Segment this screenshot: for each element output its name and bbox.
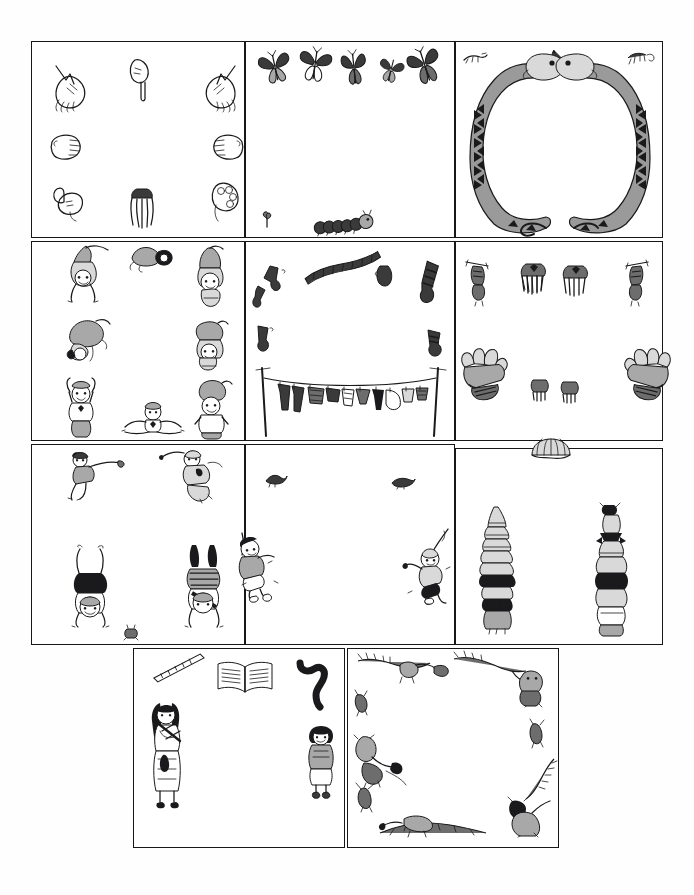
child-splits-icon [122,400,184,438]
open-hand-reaching-icon [50,60,94,112]
clothesline-icon [250,366,452,438]
monkey-on-branch-top-left-icon [356,651,452,685]
panel-hands[interactable] [31,41,245,238]
fist-right-icon [210,132,246,162]
panel-gloves[interactable] [455,241,663,441]
hat-stack-left-icon [476,505,520,635]
sock-pair-upper-left-icon [252,264,288,310]
thumbs-up-hand-icon [50,182,90,222]
child-handstand-left-icon [66,545,114,629]
bird-left-icon [264,471,288,487]
glove-on-stick-right-icon [622,258,652,308]
glove-on-stick-left-icon [462,258,492,308]
bird-right-icon [390,475,416,489]
ruler-icon [150,650,209,686]
illustration-sheet [0,0,694,895]
butterfly-icon [402,43,448,90]
panel-butterflies[interactable] [245,41,455,238]
child-on-swing-right-icon [398,529,454,605]
monkey-climbing-right-icon [504,757,562,837]
small-frog-icon [122,625,140,641]
panel-handstands[interactable] [31,444,245,645]
glove-bundle-right-icon [612,338,676,409]
butterfly-icon [295,45,335,85]
child-leaping-left-icon [64,449,126,501]
open-hand-reaching-mirrored-icon [197,60,241,112]
umbrella-hat-top-icon [528,437,574,463]
grasping-fist-icon [208,180,242,222]
panel-hats[interactable] [455,448,663,645]
child-leaping-right-icon [158,447,224,503]
panel-swings[interactable] [245,444,455,645]
child-handstand-right-icon [178,543,228,629]
child-crouching-icon [188,320,230,372]
fist-left-icon [48,132,84,162]
small-sprout-icon [260,210,274,228]
panel-laundry[interactable] [245,241,455,441]
child-rolling-icon [60,316,112,364]
panel-flute-girl[interactable] [133,648,345,848]
girl-playing-flute-icon [146,699,200,811]
caterpillar-icon [311,210,378,237]
panel-monkeys[interactable] [347,648,559,848]
panel-acrobats[interactable] [31,241,245,441]
open-book-icon [214,659,276,695]
small-monkey-lower-left-icon [352,781,378,813]
mitten-pair-right-icon [558,262,594,298]
pointing-hand-icon [127,56,157,104]
striped-sock-right-icon [409,257,447,308]
scarf-icon [298,249,385,289]
child-arms-up-icon [60,378,104,438]
mitten-centre-icon [374,264,394,288]
praying-hands-icon [128,187,156,229]
mitten-pair-left-icon [516,260,552,296]
monkey-on-branch-top-right-icon [452,651,552,707]
child-on-swing-left-icon [238,533,290,603]
sock-lower-right-icon [422,328,448,358]
sock-lower-left-icon [252,324,276,354]
small-girl-standing-icon [304,723,338,801]
glove-bundle-left-icon [456,338,520,409]
child-headstand-icon [190,246,236,308]
child-kneeling-icon [190,378,234,440]
snake-loop-icon [460,50,660,236]
child-upside-down-icon [62,244,114,304]
small-monkey-right-icon [524,719,548,749]
child-diving-icon [128,242,174,272]
panel-snakes[interactable] [455,41,663,238]
small-glove-centre-left-icon [528,376,552,402]
hat-stack-right-icon [588,503,634,637]
small-monkey-upper-left-icon [350,689,372,717]
small-glove-centre-right-icon [558,378,582,404]
wavy-snake-icon [296,657,330,709]
monkey-on-branch-bottom-icon [376,811,490,845]
butterfly-icon [336,48,372,87]
butterfly-icon [255,47,295,87]
